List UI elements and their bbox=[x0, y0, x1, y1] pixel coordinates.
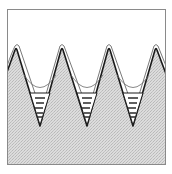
grooved-surface-diagram bbox=[0, 0, 172, 174]
